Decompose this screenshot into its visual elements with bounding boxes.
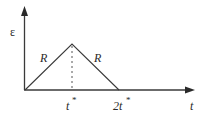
x-axis-arrow-icon [185, 87, 195, 94]
x-axis-label: t [190, 99, 194, 113]
end-time-superscript: * [126, 95, 131, 105]
rise-label: R [39, 51, 48, 65]
fall-label: R [93, 51, 102, 65]
y-axis-label: ε [10, 25, 15, 39]
end-time-label: 2t [113, 99, 123, 113]
peak-time-superscript: * [72, 95, 77, 105]
strain-time-diagram: ε R R t * 2t * t [0, 0, 205, 122]
peak-time-label: t [66, 99, 70, 113]
y-axis-arrow-icon [21, 6, 28, 16]
